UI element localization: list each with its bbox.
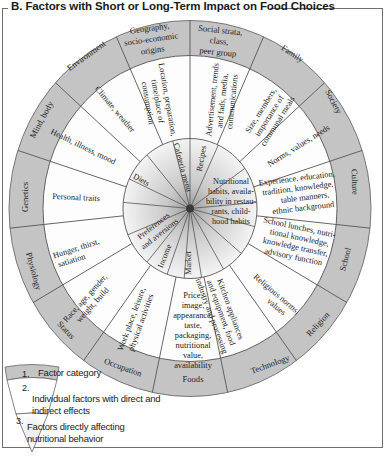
category-culture: Culture	[350, 169, 361, 195]
legend-label-direct-factors: Factors directly affecting nutritional b…	[27, 421, 147, 445]
direct-nutritional-habits: Nutritionalhabits, availa-bility in rest…	[206, 177, 256, 226]
legend-number-2: 2.	[22, 383, 30, 393]
direct-market: Market	[184, 250, 193, 274]
legend-number-3: 3.	[16, 416, 24, 426]
legend-number-1: 1.	[22, 369, 30, 379]
food-choice-wheel: Social strata,class,peer group Family So…	[0, 0, 386, 458]
legend-label-factor-category: Factor category	[38, 367, 101, 379]
legend-label-individual-factors: Individual factors with direct and indir…	[32, 393, 162, 417]
category-genetics: Genetics	[20, 181, 30, 212]
center-dot	[186, 205, 194, 213]
category-foods: Foods	[182, 374, 204, 384]
